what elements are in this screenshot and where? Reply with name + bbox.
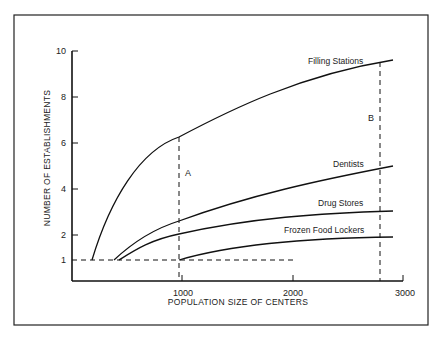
series-frozen-food-lockers [179,237,393,260]
y-tick-label-4: 4 [61,184,66,194]
chart-canvas: 10 8 6 4 2 1 1000 2000 3000 POPULATION S… [0,0,441,338]
y-axis-title: NUMBER OF ESTABLISHMENTS [42,90,52,226]
y-ticks [72,51,78,235]
label-filling-stations: Filling Stations [308,56,363,66]
series-drug-stores [119,211,393,260]
label-frozen-food-lockers: Frozen Food Lockers [284,225,364,235]
annotation-a: A [185,168,191,178]
annotation-b: B [368,113,374,123]
y-tick-label-1: 1 [61,255,66,265]
y-tick-label-10: 10 [56,46,66,56]
y-tick-label-6: 6 [61,138,66,148]
y-tick-label-8: 8 [61,92,66,102]
x-tick-label-3000: 3000 [395,288,415,298]
y-tick-label-2: 2 [61,230,66,240]
x-ticks [182,275,403,281]
label-drug-stores: Drug Stores [318,198,363,208]
x-axis-title: POPULATION SIZE OF CENTERS [168,297,308,307]
chart-frame [14,15,428,325]
label-dentists: Dentists [333,159,364,169]
